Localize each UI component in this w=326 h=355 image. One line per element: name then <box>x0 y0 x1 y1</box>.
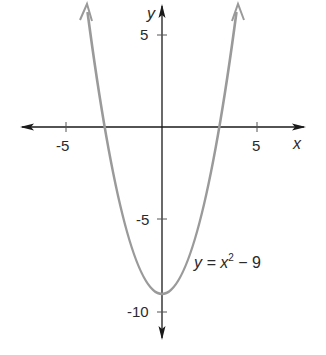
curve-right-arrow-icon <box>232 4 244 21</box>
y-tick-label-5: 5 <box>140 27 148 42</box>
y-tick-label-neg5: -5 <box>136 212 149 227</box>
equation-suffix: − 9 <box>234 254 261 271</box>
equation-prefix: y = x <box>194 254 228 271</box>
y-axis-label: y <box>147 6 155 22</box>
x-tick-label-5: 5 <box>252 138 260 153</box>
x-axis-label: x <box>293 136 301 152</box>
y-tick-label-neg10: -10 <box>127 304 149 319</box>
equation-annotation: y = x2 − 9 <box>194 253 261 271</box>
curve-left-arrow-icon <box>80 4 92 21</box>
parabola-plot <box>0 0 326 355</box>
x-tick-label-neg5: -5 <box>56 138 69 153</box>
